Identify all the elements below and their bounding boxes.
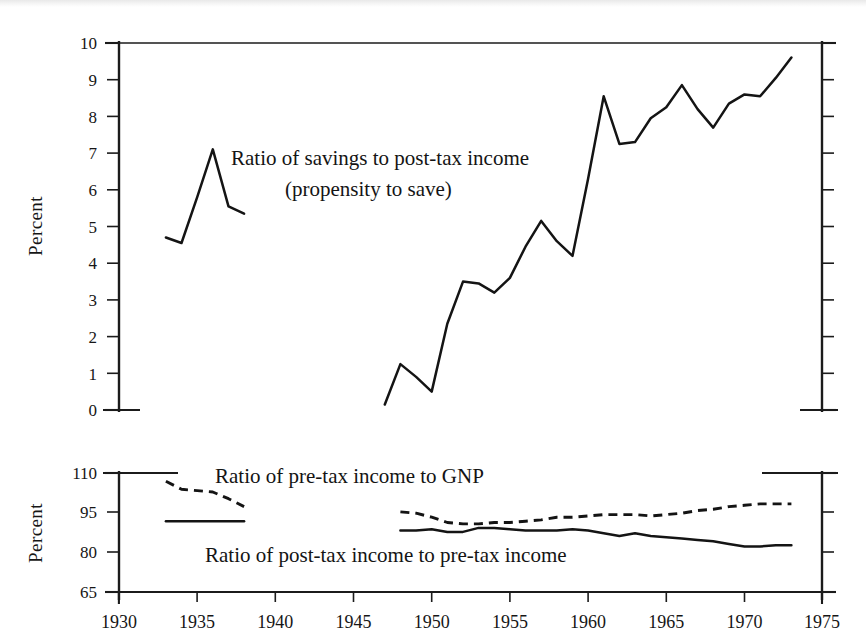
bottom-ytick-110: 110: [72, 464, 97, 483]
xtick-1960: 1960: [570, 612, 606, 632]
xtick-1945: 1945: [336, 612, 372, 632]
bottom-panel-annotation-dashed: Ratio of pre-tax income to GNP: [215, 464, 484, 488]
top-ytick-1: 1: [89, 365, 98, 384]
bottom-panel-left-ticks: [105, 473, 119, 592]
top-panel-annotation-line2: (propensity to save): [285, 177, 452, 201]
top-ytick-0: 0: [89, 401, 98, 420]
top-panel: 10 9 8 7 6 5 4 3 2 1 0 Percent Ratio of …: [25, 34, 838, 420]
bottom-panel: 110 95 80 65 Percent Ratio of pre-tax in…: [25, 464, 838, 602]
xtick-1970: 1970: [727, 612, 763, 632]
bottom-panel-right-ticks: [822, 473, 836, 592]
top-panel-left-ticks: [105, 43, 119, 410]
top-ytick-5: 5: [89, 218, 98, 237]
economics-line-chart: 10 9 8 7 6 5 4 3 2 1 0 Percent Ratio of …: [0, 0, 866, 641]
xtick-1930: 1930: [101, 612, 137, 632]
x-axis: 1930 1935 1940 1945 1950 1955 1960 1965 …: [101, 592, 840, 632]
top-ytick-3: 3: [89, 291, 98, 310]
bottom-ytick-80: 80: [80, 543, 97, 562]
xtick-1965: 1965: [648, 612, 684, 632]
top-panel-y-axis-title: Percent: [25, 196, 46, 256]
top-ytick-2: 2: [89, 328, 98, 347]
top-panel-right-ticks: [822, 43, 836, 410]
xtick-1975: 1975: [804, 612, 840, 632]
figure-page: 10 9 8 7 6 5 4 3 2 1 0 Percent Ratio of …: [0, 0, 866, 641]
xtick-1950: 1950: [414, 612, 450, 632]
bottom-ytick-95: 95: [80, 503, 97, 522]
xtick-1935: 1935: [179, 612, 215, 632]
top-ytick-8: 8: [89, 108, 98, 127]
top-ytick-6: 6: [89, 181, 98, 200]
series-propensity-to-save-postwar: [385, 58, 792, 405]
bottom-ytick-65: 65: [80, 583, 97, 602]
top-ytick-10: 10: [80, 34, 97, 53]
xtick-1955: 1955: [492, 612, 528, 632]
top-panel-annotation-line1: Ratio of savings to post-tax income: [231, 146, 529, 170]
xtick-1940: 1940: [257, 612, 293, 632]
top-ytick-9: 9: [89, 71, 98, 90]
top-ytick-7: 7: [89, 144, 98, 163]
top-ytick-4: 4: [89, 254, 98, 273]
bottom-panel-y-axis-title: Percent: [25, 503, 46, 563]
bottom-panel-annotation-solid: Ratio of post-tax income to pre-tax inco…: [205, 543, 567, 567]
series-pretax-to-gnp-postwar: [400, 504, 791, 524]
x-axis-ticks: [119, 592, 822, 604]
